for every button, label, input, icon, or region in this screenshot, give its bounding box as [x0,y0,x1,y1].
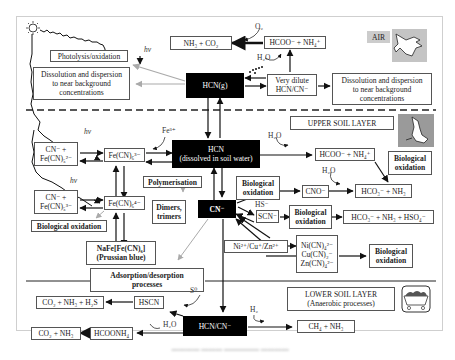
bio-oxidation-left-box: Biological oxidation [31,220,107,232]
prussian-blue-box: NaFe[Fe(CN)₆] (Prussian blue) [86,241,156,265]
air-label: AIR [367,31,390,43]
dissolution-right-box: Dissolution and dispersion to near backg… [332,73,432,105]
dimers-trimers-box: Dimers, trimers [152,200,186,224]
bio-oxidation-4-box: Biological oxidation [369,244,413,268]
co2-nh3-h2s-box: CO₂ + NH₃ + H₂S [36,296,104,309]
cn-fe5-3-box: CN⁻ + Fe(CN)₅³⁻ [34,190,78,214]
nh3-co2-box: NH₃ + CO₂ [170,36,232,50]
hcn-gas-node: HCN(g) [186,73,244,98]
bio-oxidation-3-box: Biological oxidation [289,205,332,229]
cn-fe5-2-box: CN⁻ + Fe(CN)₅²⁻ [34,142,78,166]
metal-ions-box: Ni²⁺/Cu⁺/Zn²⁺ [224,240,288,253]
o2-label: O₂ [255,22,263,31]
h2-label: H₂ [250,305,258,314]
fe-cn6-3-box: Fe(CN)₆³⁻ [104,148,145,162]
h2o-upper-1-label: H₂O [268,131,281,140]
h2o-lower-label: H₂O [163,320,176,329]
hs-label: HS⁻ [255,200,269,209]
hco3-nh3-box: HCO₃⁻ + NH₃ [355,184,412,198]
bio-oxidation-1-box: Biological oxidation [388,151,432,175]
lower-soil-label: LOWER SOIL LAYER (Anaerobic processes) [287,287,395,311]
h2o-upper-2-label: H₂O [322,166,335,175]
hv-upper-2-label: hν [70,176,77,185]
hscn-box: HSCN [134,296,164,309]
dissolution-left-box: Dissolution and dispersion to near backg… [33,67,130,100]
hv-air-label: hν [144,45,151,54]
s0-label: S⁰ [190,286,197,295]
hcoo-nh4-upper-box: HCOO⁻ + NH₄⁺ [315,148,375,161]
hcn-dissolved-node: HCN (dissolved in soil water) [172,140,260,168]
bio-oxidation-2-box: Biological oxidation [236,176,280,200]
hcn-cn-lower-node: HCN/CN⁻ [183,316,247,336]
cn-node: CN⁻ [198,200,236,218]
upper-soil-label: UPPER SOIL LAYER [290,116,394,130]
h2o-air-label: H₂O [257,53,270,62]
fe3-label: Fe³⁺ [162,126,176,135]
co2-nh3-box: CO₂ + NH₃ [31,327,81,340]
metal-cyanide-complexes-box: Ni(CN)₄²⁻ Cu(CN)₂⁻ Zn(CN)₄²⁻ [296,235,338,273]
scn-box: SCN⁻ [256,210,279,223]
figure-caption-illegible: ▬▬▬▬ ▬▬▬ ▬▬▬▬▬ ▬▬▬▬ [60,345,400,353]
cno-box: CNO⁻ [302,185,329,198]
fe-cn6-4-box: Fe(CN)₆⁴⁻ [104,196,145,210]
very-dilute-box: Very dilute HCN/CN⁻ [267,74,317,96]
hcoo-nh4-air-box: HCOO⁻ + NH₄⁺ [264,36,326,49]
ch4-nh3-box: CH₄ + NH₃ [297,320,355,333]
hv-upper-1-label: hν [84,127,91,136]
adsorption-desorption-box: Adsorption/desorption processes [90,268,204,292]
diagram-frame [16,16,443,331]
hco3-nh3-hso4-box: HCO₃⁻ + NH₃ + HSO₄⁻ [343,210,434,224]
photolysis-box: Photolysis/oxidation [50,50,128,62]
polymerisation-box: Polymerisation [143,176,202,188]
hcoonh4-box: HCOONH₄ [90,327,133,340]
